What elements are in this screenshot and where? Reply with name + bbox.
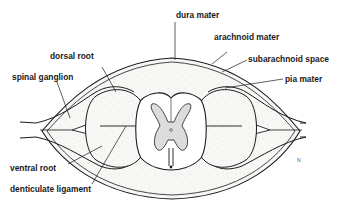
label-pia-mater: pia mater (285, 75, 322, 83)
label-spinal-ganglion: spinal ganglion (12, 73, 73, 81)
spinal-cord-diagram: N (0, 0, 350, 204)
label-ventral-root: ventral root (10, 164, 56, 172)
label-denticulate-ligament: denticulate ligament (10, 185, 91, 193)
spinal-cord (136, 93, 207, 170)
label-dorsal-root: dorsal root (50, 52, 94, 60)
central-canal (170, 129, 173, 132)
svg-text:N: N (297, 157, 301, 163)
label-arachnoid-mater: arachnoid mater (214, 33, 279, 41)
label-subarachnoid-space: subarachnoid space (248, 55, 329, 63)
label-dura-mater: dura mater (176, 11, 219, 19)
